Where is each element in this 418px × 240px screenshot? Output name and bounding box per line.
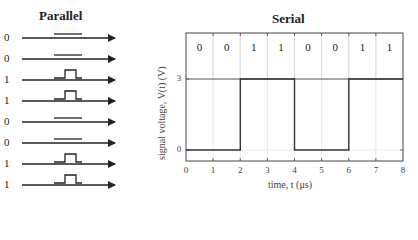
x-axis-label: time, t (μs) xyxy=(268,179,312,190)
x-tick-label: 1 xyxy=(206,165,220,175)
y-tick-label: 0 xyxy=(172,144,186,154)
x-tick-label: 0 xyxy=(179,165,193,175)
serial-bit-label: 1 xyxy=(244,41,264,53)
y-tick-label: 3 xyxy=(172,73,186,83)
pulse-signal-icon xyxy=(54,175,82,183)
serial-bit-label: 0 xyxy=(217,41,237,53)
serial-bit-label: 0 xyxy=(298,41,318,53)
pulse-signal-icon xyxy=(54,91,82,99)
x-tick-label: 4 xyxy=(288,165,302,175)
serial-bit-label: 1 xyxy=(380,41,400,53)
serial-waveform xyxy=(186,79,403,150)
parallel-lines xyxy=(22,38,115,185)
serial-bit-label: 0 xyxy=(190,41,210,53)
serial-bit-label: 1 xyxy=(352,41,372,53)
x-tick-label: 7 xyxy=(369,165,383,175)
x-tick-label: 3 xyxy=(260,165,274,175)
serial-bit-label: 1 xyxy=(271,41,291,53)
pulse-signal-icon xyxy=(54,154,82,162)
x-tick-label: 6 xyxy=(342,165,356,175)
parallel-waveforms xyxy=(54,34,82,183)
x-tick-label: 2 xyxy=(233,165,247,175)
y-axis-label: signal voltage, V(t) (V) xyxy=(156,66,167,160)
bit-dividers xyxy=(213,33,376,79)
x-tick-label: 8 xyxy=(396,165,410,175)
x-tick-label: 5 xyxy=(315,165,329,175)
serial-bit-label: 0 xyxy=(325,41,345,53)
pulse-signal-icon xyxy=(54,70,82,78)
